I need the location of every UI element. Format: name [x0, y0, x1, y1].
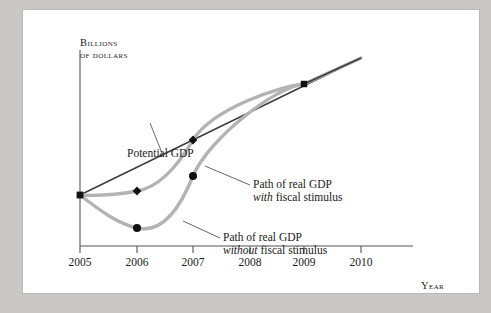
x-axis-title: Year: [421, 280, 444, 292]
annotation-with-stimulus-line1: Path of real GDP: [253, 178, 342, 191]
annotation-with-stimulus-emphasis: with: [253, 191, 273, 203]
annotation-without-stimulus-line2: without fiscal stimulus: [223, 244, 327, 257]
annotation-without-stimulus: Path of real GDP without fiscal stimulus: [223, 231, 327, 257]
x-tick-label-2005: 2005: [69, 256, 92, 269]
marker-2006-without-stimulus: [133, 224, 141, 232]
y-axis-title: Billions of dollars: [80, 37, 128, 61]
marker-2007-without-stimulus: [189, 172, 197, 180]
annotation-potential-gdp: Potential GDP: [127, 147, 194, 160]
leader-line-without-stimulus: [183, 221, 220, 238]
x-tick-label-2007: 2007: [182, 256, 205, 269]
x-tick-label-2008: 2008: [239, 256, 262, 269]
annotation-with-stimulus: Path of real GDP with fiscal stimulus: [253, 178, 342, 204]
marker-2006-with-stimulus: [133, 187, 142, 196]
annotation-potential-gdp-text: Potential GDP: [127, 147, 194, 159]
annotation-with-stimulus-line2: with fiscal stimulus: [253, 191, 342, 204]
annotation-with-stimulus-rest: fiscal stimulus: [273, 191, 343, 203]
x-tick-label-2006: 2006: [126, 256, 149, 269]
figure-card: Billions of dollars 2005 2006 2007 2008 …: [22, 9, 480, 294]
potential-gdp-line-overlay: [304, 58, 361, 84]
y-axis-title-line2: of dollars: [80, 49, 128, 61]
annotation-without-stimulus-rest: fiscal stimulus: [258, 244, 328, 256]
x-tick-label-2010: 2010: [350, 256, 373, 269]
figure-outer-frame: Billions of dollars 2005 2006 2007 2008 …: [0, 0, 491, 313]
annotation-without-stimulus-emphasis: without: [223, 244, 258, 256]
y-axis-title-line1: Billions: [80, 37, 117, 48]
annotation-without-stimulus-line1: Path of real GDP: [223, 231, 327, 244]
x-tick-label-2009: 2009: [293, 256, 316, 269]
marker-2005-origin: [77, 192, 84, 199]
marker-2009-convergence: [301, 81, 307, 87]
leader-line-with-stimulus: [205, 166, 250, 185]
